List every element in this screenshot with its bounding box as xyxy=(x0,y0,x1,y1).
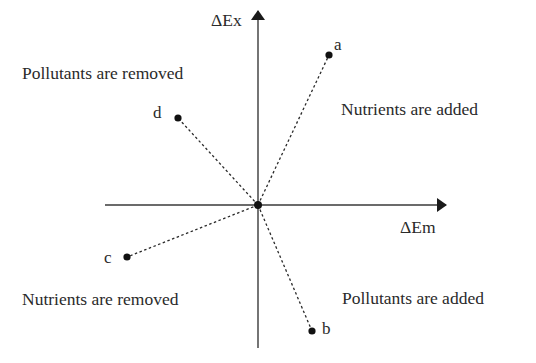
quadrant-bottom-left-label: Nutrients are removed xyxy=(22,291,178,309)
point-b-label: b xyxy=(322,320,331,337)
point-d-label: d xyxy=(153,104,162,121)
y-axis-label: ΔEx xyxy=(211,12,242,30)
point-c-label: c xyxy=(104,249,112,266)
point-c xyxy=(123,253,130,260)
vector-d xyxy=(178,118,258,205)
vector-c xyxy=(127,205,258,257)
point-b xyxy=(308,327,315,334)
vector-a xyxy=(258,55,329,205)
x-axis-label: ΔEm xyxy=(400,219,436,237)
point-d xyxy=(174,114,181,121)
vector-b xyxy=(258,205,312,331)
point-a-label: a xyxy=(334,36,342,53)
quadrant-top-right-label: Nutrients are added xyxy=(341,101,478,119)
quadrant-top-left-label: Pollutants are removed xyxy=(22,65,183,83)
point-a xyxy=(325,51,332,58)
origin-point xyxy=(254,201,262,209)
quadrant-bottom-right-label: Pollutants are added xyxy=(342,290,484,308)
